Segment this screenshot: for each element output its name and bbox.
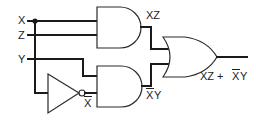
- label-xnot-y-x: X: [146, 89, 154, 101]
- label-x-not: X: [84, 97, 92, 109]
- label-xnot-y-y: Y: [154, 89, 162, 101]
- label-output-x: X: [232, 70, 240, 82]
- and-gate-2: [97, 66, 142, 107]
- label-output-a: XZ +: [200, 70, 224, 82]
- label-output-y: Y: [240, 70, 248, 82]
- wire-x-branch: [35, 21, 48, 93]
- and-gate-1: [97, 7, 141, 48]
- input-label-x: X: [18, 14, 26, 26]
- logic-circuit-diagram: X Z Y XZ X X Y XZ + X Y: [0, 0, 256, 122]
- not-gate: [48, 74, 79, 113]
- label-xz: XZ: [146, 9, 160, 21]
- input-label-y: Y: [18, 53, 26, 65]
- input-label-z: Z: [18, 29, 25, 41]
- wire-y: [28, 59, 97, 76]
- junction-dot: [32, 18, 37, 23]
